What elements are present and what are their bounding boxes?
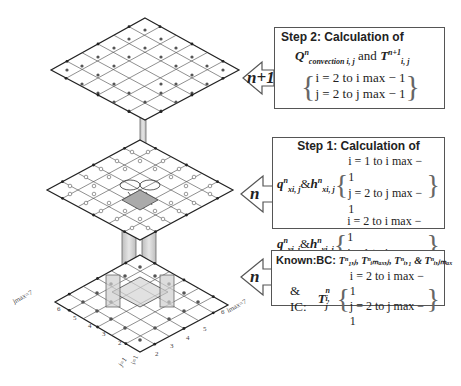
grid-plane-bottom xyxy=(55,255,228,352)
i-axis-tick-4: 4 xyxy=(186,334,190,342)
known-bc-row: Known:BC: Tⁿ₁,ⱼ, Tⁿᵢₘₐₓ,ⱼ, Tⁿᵢ,₁ & Tⁿᵢ,ⱼ… xyxy=(276,252,440,269)
time-level-label-middle: n xyxy=(250,184,259,204)
step2-quantities: Qnconvection i, j and Tn+1i, j xyxy=(281,44,438,70)
step2-range: { i = 2 to i max − 1 j = 2 to j max − 1 … xyxy=(281,70,438,102)
step2-range-j: j = 2 to j max − 1 xyxy=(315,86,405,102)
step1-x-row: qnxi, j&hnxi, j { i = 1 to i max − 1 j =… xyxy=(277,153,440,217)
j-axis-tick-4: 4 xyxy=(88,322,92,330)
step1-box: Step 1: Calculation of qnxi, j&hnxi, j {… xyxy=(272,137,445,229)
time-level-label-bottom: n xyxy=(250,267,259,287)
i-axis-tick-6: 6 xyxy=(221,308,225,316)
step2-box: Step 2: Calculation of Qnconvection i, j… xyxy=(274,27,445,109)
known-range-j: j = 2 to j max − 1 xyxy=(350,299,427,329)
step1-x-range-i: i = 1 to i max − 1 xyxy=(348,153,426,185)
step1-title: Step 1: Calculation of xyxy=(277,139,440,153)
j-axis-tick-6: 6 xyxy=(57,305,61,313)
known-bc-terms: Tⁿ₁,ⱼ, Tⁿᵢₘₐₓ,ⱼ, Tⁿᵢ,₁ & Tⁿᵢ,ⱼₘₐₓ xyxy=(339,255,453,266)
known-range-i: i = 2 to i max − 1 xyxy=(350,269,427,299)
step2-range-i: i = 2 to i max − 1 xyxy=(315,70,405,86)
j-axis-tick-3: 3 xyxy=(102,330,106,338)
i-axis-tick-2: 2 xyxy=(155,350,159,358)
j-axis-tick-5: 5 xyxy=(73,314,77,322)
step1-y-range-i: i = 2 to i max − 1 xyxy=(347,213,426,245)
step1-x-quantities: qnxi, j&hnxi, j xyxy=(277,176,335,194)
grid-plane-middle xyxy=(47,140,233,240)
known-ic-row: & IC: Tni, j { i = 2 to i max − 1 j = 2 … xyxy=(276,269,440,329)
step2-title: Step 2: Calculation of xyxy=(281,30,438,44)
grid-plane-top xyxy=(51,18,239,120)
time-level-label-top: n+1 xyxy=(247,68,275,88)
i-axis-tick-5: 5 xyxy=(203,325,207,333)
known-box: Known:BC: Tⁿ₁,ⱼ, Tⁿᵢₘₐₓ,ⱼ, Tⁿᵢ,₁ & Tⁿᵢ,ⱼ… xyxy=(271,250,445,306)
i-axis-tick-3: 3 xyxy=(170,342,174,350)
j-axis-tick-2: 2 xyxy=(118,339,122,347)
